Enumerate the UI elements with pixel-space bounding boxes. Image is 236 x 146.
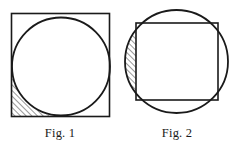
fig2-caption: Fig. 2 <box>118 126 236 140</box>
fig1-circle <box>12 18 110 116</box>
figure-1-group <box>10 14 111 121</box>
figure-plate: Fig. 1 Fig. 2 <box>0 0 236 146</box>
fig1-shaded-corner-region <box>10 65 66 121</box>
fig2-circle <box>125 10 228 113</box>
fig2-square <box>136 23 218 100</box>
fig1-hatching <box>10 65 66 121</box>
fig1-caption: Fig. 1 <box>0 126 120 140</box>
figure-2-group <box>123 10 228 113</box>
figure-canvas <box>0 0 236 146</box>
